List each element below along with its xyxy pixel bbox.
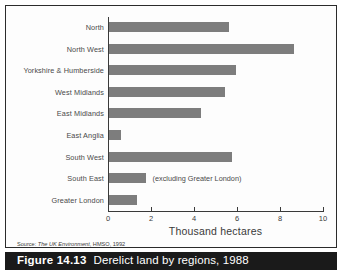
chart-plot-area: NorthNorth WestYorkshire & HumbersideWes… bbox=[6, 6, 338, 249]
x-axis-title: Thousand hectares bbox=[103, 226, 328, 237]
chart-frame: NorthNorth WestYorkshire & HumbersideWes… bbox=[5, 5, 337, 248]
x-axis-tick-8 bbox=[280, 207, 281, 211]
x-axis-tick-0 bbox=[108, 207, 109, 211]
x-axis-line bbox=[108, 211, 324, 212]
source-note: Source: The UK Environment, HMSO, 1992 bbox=[17, 242, 125, 248]
x-axis-tick-label-2: 2 bbox=[141, 215, 161, 223]
category-label-south-east: South East bbox=[12, 175, 104, 182]
x-axis-tick-2 bbox=[151, 207, 152, 211]
category-label-yorkshire-humberside: Yorkshire & Humberside bbox=[12, 67, 104, 74]
figure-number: Figure 14.13 bbox=[17, 255, 87, 267]
figure-title: Derelict land by regions, 1988 bbox=[94, 255, 249, 267]
category-label-greater-london: Greater London bbox=[12, 197, 104, 204]
bar-east-midlands bbox=[109, 108, 201, 118]
bar-annotation-south-east: (excluding Greater London) bbox=[153, 175, 242, 182]
bar-south-east bbox=[109, 173, 146, 183]
category-label-west-midlands: West Midlands bbox=[12, 89, 104, 96]
x-axis-tick-label-4: 4 bbox=[184, 215, 204, 223]
x-axis-tick-4 bbox=[194, 207, 195, 211]
category-label-north-west: North West bbox=[12, 46, 104, 53]
x-axis-tick-10 bbox=[323, 207, 324, 211]
x-axis-tick-label-0: 0 bbox=[98, 215, 118, 223]
figure-caption-bar: Figure 14.13 Derelict land by regions, 1… bbox=[5, 252, 337, 270]
bar-north-west bbox=[109, 44, 294, 54]
source-publication: The UK Environment bbox=[38, 241, 90, 247]
bar-south-west bbox=[109, 152, 232, 162]
category-label-east-midlands: East Midlands bbox=[12, 110, 104, 117]
x-axis-tick-label-8: 8 bbox=[270, 215, 290, 223]
x-axis-tick-label-6: 6 bbox=[227, 215, 247, 223]
bar-north bbox=[109, 22, 229, 32]
category-label-east-anglia: East Anglia bbox=[12, 132, 104, 139]
bar-east-anglia bbox=[109, 130, 121, 140]
category-label-south-west: South West bbox=[12, 154, 104, 161]
bar-greater-london bbox=[109, 195, 137, 205]
bar-west-midlands bbox=[109, 87, 225, 97]
x-axis-tick-6 bbox=[237, 207, 238, 211]
bar-yorkshire-humberside bbox=[109, 65, 236, 75]
x-axis-tick-label-10: 10 bbox=[313, 215, 333, 223]
figure-container: NorthNorth WestYorkshire & HumbersideWes… bbox=[0, 0, 342, 274]
category-label-north: North bbox=[12, 24, 104, 31]
